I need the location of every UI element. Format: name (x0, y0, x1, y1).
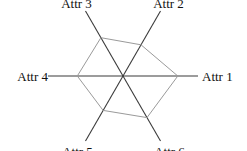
axis-line (123, 11, 161, 76)
axis-label: Attr 5 (62, 144, 93, 151)
axis-line (86, 76, 124, 141)
axis-label: Attr 4 (17, 69, 48, 84)
axis-label: Attr 6 (154, 144, 185, 151)
axis-line (86, 11, 124, 76)
radar-axes (48, 11, 198, 141)
radar-chart: Attr 1Attr 2Attr 3Attr 4Attr 5Attr 6 (0, 0, 247, 151)
axis-line (123, 76, 161, 141)
axis-label: Attr 3 (61, 0, 92, 11)
axis-label: Attr 1 (202, 69, 233, 84)
series-polygon (77, 38, 178, 118)
axis-label: Attr 2 (153, 0, 184, 11)
